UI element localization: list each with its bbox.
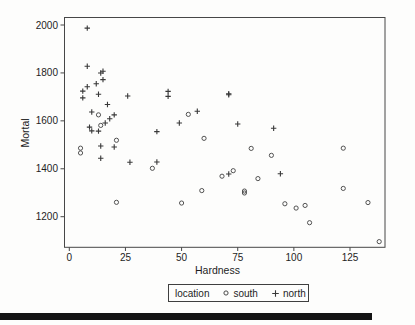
point-north — [177, 120, 182, 125]
y-axis-title: Mortal — [19, 118, 31, 147]
point-north — [98, 156, 103, 161]
scatter-plot-figure: 200018001600140012000255075100125 Mortal… — [0, 0, 415, 325]
page-bottom-rule — [0, 313, 372, 320]
point-north — [226, 92, 231, 97]
point-north — [89, 109, 94, 114]
point-north — [96, 128, 101, 133]
point-north — [112, 112, 117, 117]
legend: location south north — [168, 284, 309, 302]
plus-marker-icon — [271, 289, 280, 298]
y-tick-label: 1200 — [36, 211, 59, 222]
point-north — [85, 84, 90, 89]
x-tick-label: 50 — [176, 252, 188, 263]
point-south — [283, 202, 287, 206]
point-south — [366, 200, 370, 204]
point-north — [165, 94, 170, 99]
point-south — [200, 188, 204, 192]
point-south — [99, 123, 103, 127]
point-south — [303, 203, 307, 207]
x-tick-label: 25 — [120, 252, 132, 263]
point-north — [107, 116, 112, 121]
point-south — [249, 146, 253, 150]
point-north — [271, 126, 276, 131]
point-north — [165, 89, 170, 94]
legend-key-north: north — [271, 288, 306, 299]
point-south — [114, 138, 118, 142]
point-north — [98, 143, 103, 148]
point-north — [105, 102, 110, 107]
point-north — [125, 93, 130, 98]
y-tick-label: 1800 — [36, 67, 59, 78]
y-tick-label: 1400 — [36, 163, 59, 174]
point-north — [112, 144, 117, 149]
point-south — [294, 206, 298, 210]
point-north — [103, 120, 108, 125]
point-north — [80, 95, 85, 100]
y-tick-label: 1600 — [36, 115, 59, 126]
point-south — [202, 136, 206, 140]
point-north — [94, 81, 99, 86]
point-north — [80, 88, 85, 93]
point-north — [154, 159, 159, 164]
y-tick-label: 2000 — [36, 20, 59, 31]
point-south — [269, 153, 273, 157]
point-north — [85, 25, 90, 30]
legend-key-south: south — [222, 288, 257, 299]
point-south — [78, 151, 82, 155]
point-north — [154, 129, 159, 134]
point-north — [235, 121, 240, 126]
legend-title: location — [175, 288, 209, 299]
point-north — [127, 160, 132, 165]
x-axis-title: Hardness — [65, 264, 370, 276]
circle-marker-icon — [222, 289, 230, 297]
point-south — [96, 113, 100, 117]
point-south — [150, 166, 154, 170]
legend-label-north: north — [283, 288, 306, 299]
point-north — [85, 64, 90, 69]
point-south — [231, 169, 235, 173]
point-south — [341, 146, 345, 150]
point-north — [195, 109, 200, 114]
point-south — [377, 240, 381, 244]
x-tick-label: 0 — [67, 252, 73, 263]
point-north — [96, 92, 101, 97]
plot-area: 200018001600140012000255075100125 — [0, 0, 415, 325]
point-north — [278, 171, 283, 176]
point-south — [220, 174, 224, 178]
point-south — [256, 176, 260, 180]
point-south — [341, 186, 345, 190]
plot-border — [65, 18, 386, 248]
x-tick-label: 75 — [232, 252, 244, 263]
point-north — [226, 171, 231, 176]
point-south — [179, 201, 183, 205]
point-south — [114, 200, 118, 204]
point-south — [307, 221, 311, 225]
legend-label-south: south — [233, 288, 257, 299]
point-south — [78, 146, 82, 150]
point-north — [100, 77, 105, 82]
point-south — [186, 112, 190, 116]
x-tick-label: 100 — [286, 252, 303, 263]
x-tick-label: 125 — [342, 252, 359, 263]
